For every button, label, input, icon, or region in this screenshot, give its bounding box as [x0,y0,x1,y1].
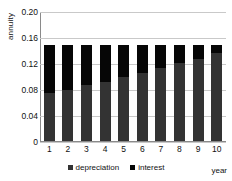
x-axis-tick-labels: 12345678910 [40,144,226,158]
bar-segment-interest [44,45,55,94]
bar-column [62,12,73,142]
bar-segment-depreciation [100,82,111,142]
legend-swatch-icon [68,165,73,170]
x-axis-line [40,141,226,142]
bar-column [81,12,92,142]
bar-segment-interest [118,45,129,78]
bar-column [155,12,166,142]
bar-segment-depreciation [211,53,222,142]
legend-item: interest [130,163,164,172]
bar-column [100,12,111,142]
y-axis-tick-label: 0.12 [4,59,38,69]
bar-segment-depreciation [137,73,148,142]
annuity-stacked-bar-chart: annuity 00.040.080.120.160.20 1234567891… [0,0,232,181]
legend-swatch-icon [130,165,135,170]
bar-column [174,12,185,142]
x-axis-tick-label: 9 [193,144,204,154]
bar-segment-interest [211,45,222,53]
x-axis-title: year [211,166,227,175]
bar-column [118,12,129,142]
bar-segment-interest [155,45,166,68]
legend-item: depreciation [68,163,120,172]
bar-segment-interest [174,45,185,64]
bar-segment-interest [81,45,92,86]
bar-segment-depreciation [174,63,185,142]
bar-segment-depreciation [155,68,166,142]
bar-segment-interest [100,45,111,82]
chart-legend: depreciationinterest [0,163,232,172]
bar-group [40,12,226,142]
bar-segment-depreciation [81,85,92,142]
x-axis-tick-label: 2 [62,144,73,154]
bar-column [193,12,204,142]
x-axis-tick-label: 10 [211,144,222,154]
bar-segment-interest [137,45,148,74]
bar-column [44,12,55,142]
y-axis-tick-label: 0.16 [4,33,38,43]
bar-segment-depreciation [44,93,55,142]
bar-segment-depreciation [118,77,129,142]
y-axis-tick-label: 0.04 [4,111,38,121]
plot-area [40,12,226,142]
x-axis-tick-label: 7 [155,144,166,154]
x-axis-tick-label: 6 [137,144,148,154]
y-axis-tick-label: 0.08 [4,85,38,95]
x-axis-tick-label: 1 [44,144,55,154]
legend-label: interest [138,163,164,172]
y-axis-tick-label: 0 [4,137,38,147]
bar-segment-depreciation [193,59,204,142]
x-axis-tick-label: 5 [118,144,129,154]
gridline [40,142,226,143]
bar-segment-depreciation [62,90,73,142]
legend-label: depreciation [76,163,120,172]
x-axis-tick-label: 3 [81,144,92,154]
bar-column [137,12,148,142]
bar-column [211,12,222,142]
x-axis-tick-label: 8 [174,144,185,154]
bar-segment-interest [62,45,73,91]
x-axis-tick-label: 4 [100,144,111,154]
y-axis-tick-label: 0.20 [4,7,38,17]
bar-segment-interest [193,45,204,59]
